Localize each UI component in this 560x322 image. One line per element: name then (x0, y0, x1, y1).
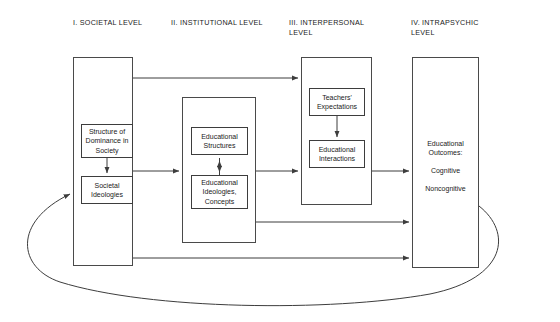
column-header-intrapsychic: IV. INTRAPSYCHIC LEVEL (411, 18, 479, 37)
box-teachers-expectations: Teachers' Expectations (309, 88, 365, 116)
diagram-canvas: I. SOCIETAL LEVEL II. INSTITUTIONAL LEVE… (0, 0, 560, 322)
text-cognitive: Cognitive (412, 166, 479, 175)
text-noncognitive: Noncognitive (412, 184, 479, 193)
level-box-interpersonal (301, 57, 372, 205)
text-educational-outcomes: Educational Outcomes: (412, 139, 479, 158)
level-box-societal (73, 57, 133, 266)
box-structure-of-dominance: Structure of Dominance in Society (81, 124, 133, 158)
box-educational-structures: Educational Structures (191, 127, 248, 155)
level-box-institutional (182, 97, 256, 243)
column-header-interpersonal: III. INTERPERSONAL LEVEL (289, 18, 364, 37)
box-societal-ideologies: Societal Ideologies (81, 176, 133, 204)
box-educational-interactions: Educational Interactions (309, 140, 365, 168)
column-header-societal: I. SOCIETAL LEVEL (73, 18, 142, 28)
box-educational-ideologies-concepts: Educational Ideologies, Concepts (191, 175, 248, 209)
column-header-institutional: II. INSTITUTIONAL LEVEL (171, 18, 263, 28)
level-box-intrapsychic (412, 57, 479, 268)
